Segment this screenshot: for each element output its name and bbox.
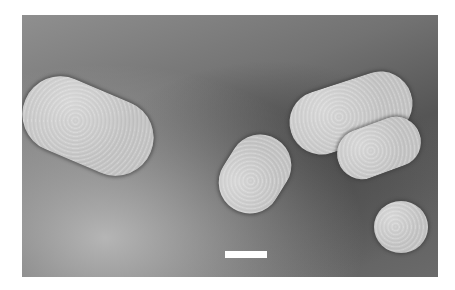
scale-bar	[225, 251, 267, 258]
micrograph-image	[22, 15, 438, 277]
rod-particle-large	[22, 64, 165, 187]
round-particle	[374, 201, 428, 253]
rod-particle-center	[207, 123, 303, 225]
